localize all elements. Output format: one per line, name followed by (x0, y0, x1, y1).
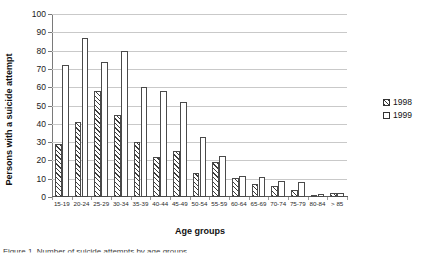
chart-legend: 19981999 (383, 96, 412, 122)
x-axis-tick-label: 30-34 (113, 200, 129, 207)
y-axis-tick-mark (48, 69, 52, 70)
legend-label-1998: 1998 (393, 96, 412, 109)
bar-group (212, 14, 225, 197)
bar-group (232, 14, 245, 197)
bar-1999-65-69 (259, 177, 265, 197)
y-axis-tick-label: 0 (41, 193, 46, 202)
bar-1998-60-64 (232, 178, 238, 197)
bar-1999-20-24 (82, 38, 88, 197)
y-axis-tick-mark (48, 142, 52, 143)
x-axis-tick-label: 35-39 (133, 200, 149, 207)
bar-group (330, 14, 343, 197)
y-axis-tick-label: 100 (32, 10, 46, 19)
y-axis-tick-label: 10 (37, 174, 46, 183)
y-axis-tick-label: 60 (37, 83, 46, 92)
legend-swatch-1999 (383, 112, 390, 119)
bar-1999-75-79 (298, 182, 304, 197)
bar-chart-figure: Persons with a suicide attempt 010203040… (0, 0, 443, 259)
legend-item-1999: 1999 (383, 109, 412, 122)
bar-1999-15-19 (62, 65, 68, 197)
y-axis-tick-mark (48, 179, 52, 180)
y-axis-tick-label: 50 (37, 101, 46, 110)
x-axis-tick-mark (52, 197, 53, 200)
x-axis-tick-mark (347, 197, 348, 200)
x-axis-tick-mark (308, 197, 309, 200)
y-axis-tick-mark (48, 51, 52, 52)
bar-1998-70-74 (271, 186, 277, 197)
y-axis-tick-label: 40 (37, 120, 46, 129)
x-axis-tick-label: > 85 (331, 200, 343, 207)
x-axis-tick-mark (111, 197, 112, 200)
bar-1998-15-19 (55, 144, 61, 197)
plot-area: 0102030405060708090100 (52, 14, 347, 197)
x-axis-tick-label: 20-24 (74, 200, 90, 207)
x-axis-tick-label: 40-44 (152, 200, 168, 207)
x-axis-tick-label: 15-19 (54, 200, 70, 207)
x-axis-tick-mark (209, 197, 210, 200)
y-axis-title: Persons with a suicide attempt (4, 28, 16, 211)
x-axis-title: Age groups (52, 226, 348, 236)
x-axis-tick-mark (170, 197, 171, 200)
bar-group (114, 14, 127, 197)
x-axis-tick-label: 80-84 (310, 200, 326, 207)
y-axis-tick-label: 20 (37, 156, 46, 165)
bar-1998-25-29 (94, 91, 100, 197)
bar-group (193, 14, 206, 197)
y-axis-tick-label: 80 (37, 46, 46, 55)
bar-1999-50-54 (200, 137, 206, 197)
bar-1999-60-64 (239, 176, 245, 197)
x-axis-tick-mark (327, 197, 328, 200)
legend-label-1999: 1999 (393, 109, 412, 122)
figure-caption: Figure 1. Number of suicide attempts by … (3, 247, 187, 256)
x-axis-tick-mark (288, 197, 289, 200)
x-axis-tick-label: 45-49 (172, 200, 188, 207)
x-axis-tick-label: 60-64 (231, 200, 247, 207)
legend-swatch-1998 (383, 99, 390, 106)
bar-1998-> 85 (330, 193, 336, 197)
bar-1998-50-54 (193, 173, 199, 197)
bar-1999-> 85 (337, 193, 343, 197)
y-axis-tick-label: 70 (37, 65, 46, 74)
x-axis-tick-mark (249, 197, 250, 200)
bar-group (94, 14, 107, 197)
y-axis-tick-mark (48, 124, 52, 125)
bar-group (173, 14, 186, 197)
x-axis-tick-label: 75-79 (290, 200, 306, 207)
x-axis-tick-label: 65-69 (251, 200, 267, 207)
y-axis-tick-mark (48, 106, 52, 107)
bar-1999-70-74 (278, 181, 284, 197)
bar-1998-65-69 (252, 184, 258, 197)
bar-group (311, 14, 324, 197)
x-axis-tick-mark (190, 197, 191, 200)
y-axis-tick-label: 30 (37, 138, 46, 147)
x-axis-tick-mark (229, 197, 230, 200)
x-axis-tick-label: 55-59 (211, 200, 227, 207)
bar-group (134, 14, 147, 197)
x-axis-tick-mark (91, 197, 92, 200)
bar-1999-25-29 (101, 62, 107, 197)
y-axis-tick-mark (48, 32, 52, 33)
bar-1999-80-84 (318, 194, 324, 197)
bar-group (291, 14, 304, 197)
bar-group (252, 14, 265, 197)
legend-item-1998: 1998 (383, 96, 412, 109)
bar-1998-20-24 (75, 122, 81, 197)
y-axis-tick-mark (48, 87, 52, 88)
bar-1998-75-79 (291, 190, 297, 197)
bar-1999-35-39 (141, 87, 147, 197)
bar-1998-45-49 (173, 151, 179, 197)
bar-1998-80-84 (311, 195, 317, 197)
bar-1999-40-44 (160, 91, 166, 197)
bar-1998-30-34 (114, 115, 120, 197)
x-axis-tick-label: 70-74 (270, 200, 286, 207)
x-axis-tick-mark (131, 197, 132, 200)
y-axis-title-wrapper: Persons with a suicide attempt (5, 14, 17, 197)
x-axis-tick-label: 25-29 (93, 200, 109, 207)
bar-group (55, 14, 68, 197)
y-axis-tick-mark (48, 14, 52, 15)
x-axis-tick-mark (268, 197, 269, 200)
bar-group (153, 14, 166, 197)
bar-1999-45-49 (180, 102, 186, 197)
bar-group (75, 14, 88, 197)
y-axis-tick-label: 90 (37, 28, 46, 37)
